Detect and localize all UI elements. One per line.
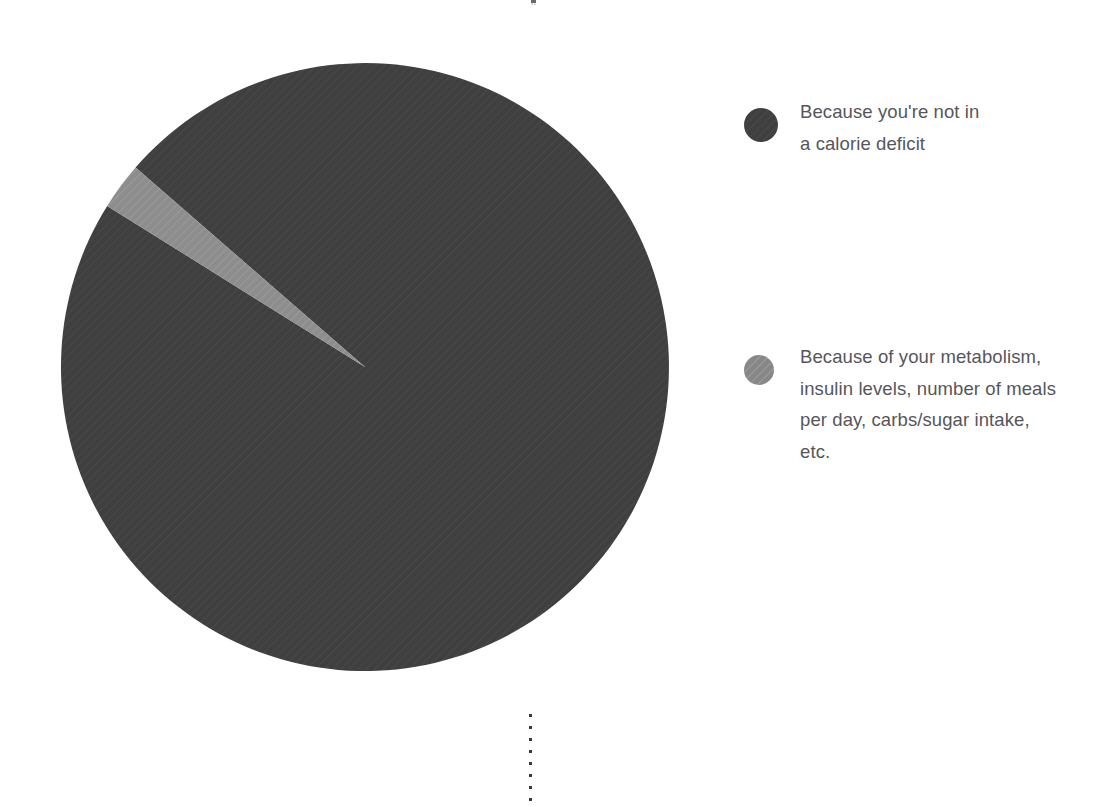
chart-legend: Because you're not in a calorie deficit … (744, 96, 1074, 467)
pie-slice-calorie-deficit (61, 63, 669, 671)
pie-graphic (58, 60, 672, 674)
legend-swatch-calorie-deficit-icon (744, 108, 778, 142)
legend-swatch-metabolism-icon (744, 355, 774, 385)
legend-label-metabolism: Because of your metabolism, insulin leve… (800, 341, 1074, 467)
top-tick-mark (531, 0, 538, 6)
legend-item-metabolism[interactable]: Because of your metabolism, insulin leve… (744, 341, 1074, 467)
pie-svg (58, 60, 672, 674)
legend-item-calorie-deficit[interactable]: Because you're not in a calorie deficit (744, 96, 1074, 159)
legend-label-calorie-deficit: Because you're not in a calorie deficit (800, 96, 1074, 159)
dotted-guide-line (529, 714, 532, 807)
pie-chart-figure: Because you're not in a calorie deficit … (0, 0, 1097, 807)
